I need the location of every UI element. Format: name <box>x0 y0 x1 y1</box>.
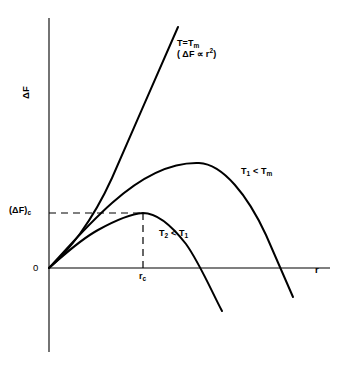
y-axis-title: ΔF <box>20 86 32 99</box>
curve-label-t1-subscript2: m <box>266 170 272 177</box>
curve-label-tm-proportionality: ( ΔF ∝ r <box>177 49 209 59</box>
figure-container: ΔF r 0 (ΔF)c rc T=Tm ( ΔF ∝ r2) T1 < Tm … <box>0 0 341 371</box>
curve-label-tm-subscript: m <box>194 42 200 49</box>
origin-label: 0 <box>33 262 38 274</box>
curve-label-tm-text: T=T <box>177 38 194 48</box>
curve-label-t2: T2 < T1 <box>159 228 188 239</box>
critical-free-energy-label: (ΔF)c <box>9 205 31 216</box>
curve-t2 <box>49 213 222 311</box>
curve-label-tm-exponent: 2 <box>209 47 213 54</box>
curve-label-tm-close-paren: ) <box>213 49 216 59</box>
curve-label-tm-line2: ( ΔF ∝ r2) <box>177 49 216 60</box>
curve-label-t1: T1 < Tm <box>241 166 272 177</box>
curve-label-t1-text: T <box>241 166 247 176</box>
critical-radius-subscript: c <box>143 275 147 282</box>
curve-label-t-equals-tm: T=Tm ( ΔF ∝ r2) <box>177 38 216 61</box>
curve-label-t2-subscript2: 1 <box>184 232 188 239</box>
curve-label-t2-relation: < T <box>168 228 184 238</box>
critical-free-energy-subscript: c <box>27 209 31 216</box>
critical-radius-label: rc <box>139 271 146 282</box>
curve-label-t1-relation: < T <box>250 166 266 176</box>
x-axis-title: r <box>315 264 319 276</box>
critical-free-energy-text: (ΔF) <box>9 205 27 215</box>
curve-label-t2-subscript: 2 <box>165 232 169 239</box>
curve-label-t2-text: T <box>159 228 165 238</box>
curve-label-t1-subscript: 1 <box>247 170 251 177</box>
plot-canvas <box>0 0 341 371</box>
